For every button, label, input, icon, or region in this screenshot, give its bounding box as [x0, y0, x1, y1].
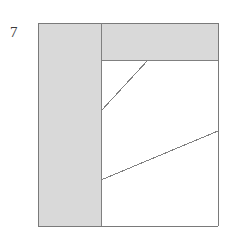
figure-container: 7 — [0, 0, 229, 237]
region-top-band-shaded — [101, 23, 218, 60]
geometry-diagram — [0, 0, 229, 237]
region-interior-white — [101, 60, 218, 226]
region-left-column-shaded — [38, 23, 101, 226]
shaded-regions — [38, 23, 218, 226]
